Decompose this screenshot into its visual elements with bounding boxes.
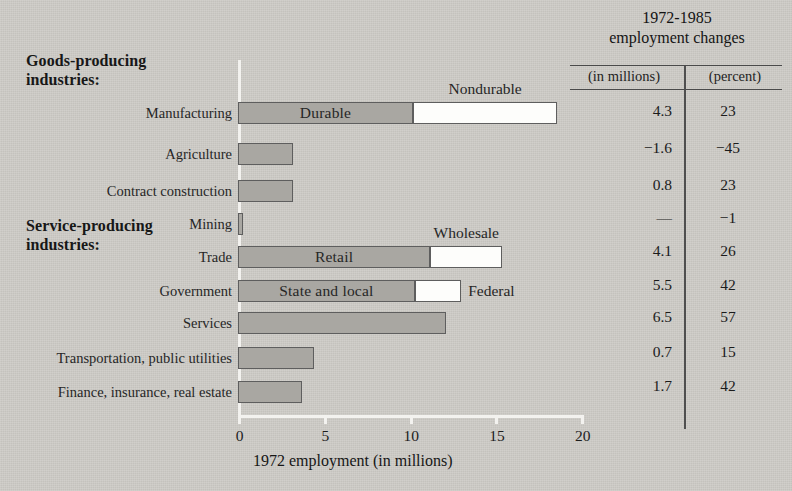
table-cell-percent-row-3: 23: [692, 176, 764, 194]
category-label-mining: Mining: [0, 216, 238, 232]
category-label-manufacturing: Manufacturing: [0, 105, 238, 121]
x-tick-5: [324, 415, 327, 424]
group-heading-goods-producing: Goods-producing industries:: [26, 51, 146, 89]
category-label-services: Services: [0, 315, 238, 331]
table-cell-millions-row-1: 4.3: [568, 102, 672, 120]
x-tick-label-10: 10: [403, 427, 419, 445]
bar-segment-open-government[interactable]: [415, 280, 461, 302]
table-cell-millions-row-2: −1.6: [568, 139, 672, 157]
table-rule-top: [570, 65, 782, 66]
bar-segment-filled-transportation-public-utilities[interactable]: [238, 347, 314, 369]
table-cell-percent-row-7: 57: [692, 308, 764, 326]
bar-mining[interactable]: [238, 213, 243, 235]
figure-canvas: Goods-producing industries: Service-prod…: [0, 0, 792, 491]
bar-segment-filled-agriculture[interactable]: [238, 143, 293, 165]
x-tick-15: [495, 415, 498, 424]
bar-segment-filled-contract-construction[interactable]: [238, 180, 293, 202]
bar-contract-construction[interactable]: [238, 180, 293, 202]
table-cell-millions-row-8: 0.7: [568, 343, 672, 361]
table-cell-percent-row-2: −45: [692, 139, 764, 157]
table-column-header-millions: (in millions): [568, 68, 680, 85]
bar-segment-label-nondurable: Nondurable: [449, 80, 522, 98]
category-label-trade: Trade: [0, 249, 238, 265]
table-vertical-divider: [684, 66, 686, 429]
table-cell-percent-row-5: 26: [692, 242, 764, 260]
table-cell-percent-row-6: 42: [692, 276, 764, 294]
table-rule-bottom: [570, 89, 782, 90]
table-cell-millions-row-5: 4.1: [568, 242, 672, 260]
table-cell-percent-row-8: 15: [692, 343, 764, 361]
x-tick-label-15: 15: [489, 427, 505, 445]
table-column-header-percent: (percent): [688, 68, 782, 85]
bar-services[interactable]: [238, 312, 446, 334]
bar-segment-label-wholesale: Wholesale: [434, 224, 499, 242]
bar-agriculture[interactable]: [238, 143, 293, 165]
category-label-government: Government: [0, 283, 238, 299]
table-cell-percent-row-1: 23: [692, 102, 764, 120]
bar-segment-filled-mining[interactable]: [238, 213, 243, 235]
category-label-contract-construction: Contract construction: [0, 183, 238, 199]
bar-segment-label-federal: Federal: [468, 282, 514, 300]
table-cell-millions-row-6: 5.5: [568, 276, 672, 294]
bar-trade[interactable]: Retail: [238, 246, 502, 268]
bar-segment-label-state-and-local: State and local: [279, 282, 373, 300]
bar-transportation-public-utilities[interactable]: [238, 347, 314, 369]
x-tick-10: [410, 415, 413, 424]
employment-changes-table: 1972-1985 employment changes (in million…: [568, 4, 786, 434]
table-cell-millions-row-3: 0.8: [568, 176, 672, 194]
plot-area: 05101520 NondurableDurableWholesaleRetai…: [238, 60, 583, 415]
bar-government[interactable]: State and local: [238, 280, 461, 302]
x-axis-title: 1972 employment (in millions): [253, 452, 453, 470]
bar-segment-open-manufacturing[interactable]: [413, 102, 557, 124]
table-cell-millions-row-9: 1.7: [568, 377, 672, 395]
table-title: 1972-1985 employment changes: [568, 8, 786, 48]
table-cell-percent-row-9: 42: [692, 377, 764, 395]
bar-segment-open-trade[interactable]: [430, 246, 502, 268]
bar-segment-filled-trade[interactable]: Retail: [238, 246, 430, 268]
table-cell-percent-row-4: −1: [692, 209, 764, 227]
x-tick-0: [238, 415, 241, 424]
x-tick-label-5: 5: [321, 427, 329, 445]
bar-segment-label-durable: Durable: [300, 104, 351, 122]
category-label-transportation-public-utilities: Transportation, public utilities: [0, 350, 238, 366]
bar-segment-filled-finance-insurance-real-estate[interactable]: [238, 381, 302, 403]
bar-manufacturing[interactable]: Durable: [238, 102, 557, 124]
category-label-finance-insurance-real-estate: Finance, insurance, real estate: [0, 384, 238, 400]
table-cell-millions-row-4: —: [568, 209, 672, 227]
bar-segment-filled-manufacturing[interactable]: Durable: [238, 102, 413, 124]
category-label-agriculture: Agriculture: [0, 146, 238, 162]
bar-segment-label-retail: Retail: [315, 248, 353, 266]
bar-finance-insurance-real-estate[interactable]: [238, 381, 302, 403]
bar-segment-filled-services[interactable]: [238, 312, 446, 334]
x-tick-label-0: 0: [236, 427, 244, 445]
table-cell-millions-row-7: 6.5: [568, 308, 672, 326]
bar-segment-filled-government[interactable]: State and local: [238, 280, 415, 302]
